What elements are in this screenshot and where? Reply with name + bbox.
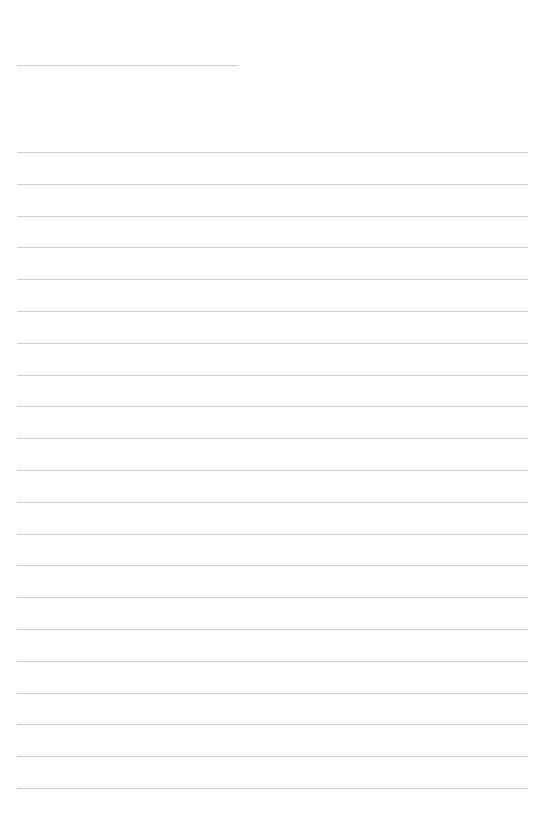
ruled-line (17, 247, 528, 248)
ruled-line (17, 375, 528, 376)
ruled-line (17, 788, 528, 789)
ruled-line (17, 343, 528, 344)
ruled-line (17, 724, 528, 725)
ruled-line (17, 279, 528, 280)
ruled-line (17, 502, 528, 503)
ruled-line (17, 216, 528, 217)
ruled-line (17, 597, 528, 598)
ruled-line (17, 693, 528, 694)
ruled-line (17, 470, 528, 471)
ruled-line (17, 534, 528, 535)
ruled-line (17, 565, 528, 566)
ruled-line (17, 661, 528, 662)
title-line (17, 65, 238, 66)
ruled-line (17, 756, 528, 757)
ruled-line (17, 438, 528, 439)
ruled-line (17, 406, 528, 407)
ruled-line (17, 629, 528, 630)
ruled-line (17, 311, 528, 312)
notepaper-page (0, 0, 544, 831)
ruled-line (17, 184, 528, 185)
ruled-line (17, 152, 528, 153)
